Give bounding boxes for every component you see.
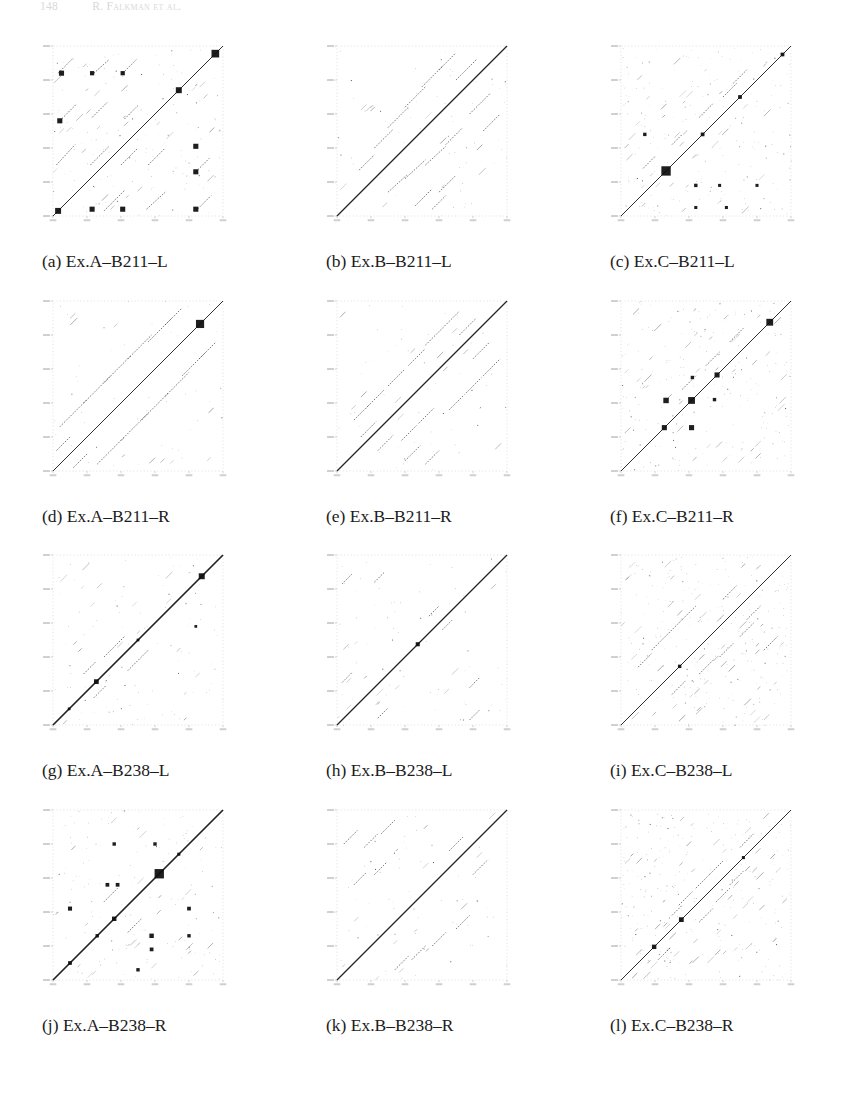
main-diagonal [621, 46, 791, 216]
figure-panel-c: (c) Ex.C–B211–L [568, 40, 852, 295]
main-diagonal [53, 810, 223, 980]
caption-g: (g) Ex.A–B238–L [0, 762, 284, 780]
main-diagonal [337, 46, 507, 216]
offdiagonal-segments [84, 637, 149, 698]
dotplot-svg-h [323, 549, 513, 739]
axis-ticks [611, 300, 794, 476]
scatter-noise [338, 559, 507, 726]
axis-ticks [327, 300, 510, 476]
figure-panel-i: (i) Ex.C–B238–L [568, 549, 852, 804]
offdiagonal-segments [359, 53, 500, 209]
dark-blocks [416, 642, 420, 646]
dotplot-svg-d [39, 295, 229, 485]
figure-row-3: (g) Ex.A–B238–L (h) Ex.B–B238–L (i) Ex.C… [0, 549, 852, 804]
dotplot-svg-j [39, 804, 229, 994]
figure-row-4: (j) Ex.A–B238–R (k) Ex.B–B238–R (l) Ex.C… [0, 804, 852, 1059]
figure-panel-f: (f) Ex.C–B211–R [568, 295, 852, 550]
caption-f: (f) Ex.C–B211–R [568, 508, 852, 526]
main-diagonal [621, 301, 791, 471]
axis-ticks [611, 809, 794, 985]
figure-panel-d: (d) Ex.A–B211–R [0, 295, 284, 550]
offdiagonal-segments [354, 311, 500, 464]
offdiagonal-segments [682, 328, 743, 389]
caption-d: (d) Ex.A–B211–R [0, 508, 284, 526]
figure-page: 148R. Falkman et al. (a) Ex.A–B211–L (b)… [0, 0, 852, 1096]
figure-grid: (a) Ex.A–B211–L (b) Ex.B–B211–L (c) Ex.C… [0, 40, 852, 1058]
caption-b: (b) Ex.B–B211–L [284, 253, 568, 271]
dotplot-h [284, 549, 568, 744]
figure-panel-e: (e) Ex.B–B211–R [284, 295, 568, 550]
dotplot-svg-c [607, 40, 797, 230]
dotplot-svg-a [39, 40, 229, 230]
dark-blocks [643, 53, 784, 209]
offdiagonal-segments [658, 833, 753, 959]
scatter-noise [341, 812, 507, 979]
caption-l: (l) Ex.C–B238–R [568, 1017, 852, 1035]
figure-panel-l: (l) Ex.C–B238–R [568, 804, 852, 1059]
dotplot-svg-g [39, 549, 229, 739]
main-diagonal [621, 555, 791, 725]
caption-c: (c) Ex.C–B211–L [568, 253, 852, 271]
dotplot-svg-e [323, 295, 513, 485]
running-title: R. Falkman et al. [92, 0, 181, 12]
dotplot-svg-b [323, 40, 513, 230]
dotplot-svg-k [323, 804, 513, 994]
dotplot-c [568, 40, 852, 235]
figure-panel-h: (h) Ex.B–B238–L [284, 549, 568, 804]
dotplot-svg-i [607, 549, 797, 739]
figure-panel-j: (j) Ex.A–B238–R [0, 804, 284, 1059]
dotplot-d [0, 295, 284, 490]
dark-blocks [196, 319, 204, 327]
dark-blocks [678, 665, 681, 668]
offdiagonal-segments [344, 820, 487, 970]
caption-k: (k) Ex.B–B238–R [284, 1017, 568, 1035]
main-diagonal [337, 301, 507, 471]
axis-ticks [327, 45, 510, 221]
axis-ticks [43, 45, 226, 221]
dotplot-f [568, 295, 852, 490]
dotplot-svg-l [607, 804, 797, 994]
axis-ticks [327, 809, 510, 985]
axis-ticks [327, 554, 510, 730]
main-diagonal [337, 555, 507, 725]
dotplot-g [0, 549, 284, 744]
figure-panel-g: (g) Ex.A–B238–L [0, 549, 284, 804]
caption-j: (j) Ex.A–B238–R [0, 1017, 284, 1035]
caption-i: (i) Ex.C–B238–L [568, 762, 852, 780]
page-number: 148 [40, 0, 58, 12]
figure-row-2: (d) Ex.A–B211–R (e) Ex.B–B211–R (f) Ex.C… [0, 295, 852, 550]
caption-e: (e) Ex.B–B211–R [284, 508, 568, 526]
main-diagonal [621, 810, 791, 980]
dotplot-a [0, 40, 284, 235]
offdiagonal-segments [638, 586, 777, 695]
offdiagonal-segments [643, 70, 747, 169]
dotplot-e [284, 295, 568, 490]
dotplot-b [284, 40, 568, 235]
scatter-noise [621, 48, 791, 216]
figure-panel-b: (b) Ex.B–B211–L [284, 40, 568, 295]
figure-panel-k: (k) Ex.B–B238–R [284, 804, 568, 1059]
figure-row-1: (a) Ex.A–B211–L (b) Ex.B–B211–L (c) Ex.C… [0, 40, 852, 295]
running-header: 148R. Falkman et al. [40, 0, 812, 14]
axis-ticks [611, 554, 794, 730]
dotplot-k [284, 804, 568, 999]
dotplot-l [568, 804, 852, 999]
main-diagonal [337, 810, 507, 980]
caption-h: (h) Ex.B–B238–L [284, 762, 568, 780]
figure-panel-a: (a) Ex.A–B211–L [0, 40, 284, 295]
dotplot-i [568, 549, 852, 744]
dotplot-j [0, 804, 284, 999]
offdiagonal-segments [342, 572, 480, 720]
caption-a: (a) Ex.A–B211–L [0, 253, 284, 271]
scatter-noise [338, 51, 507, 216]
scatter-noise [339, 305, 506, 469]
dotplot-svg-f [607, 295, 797, 485]
